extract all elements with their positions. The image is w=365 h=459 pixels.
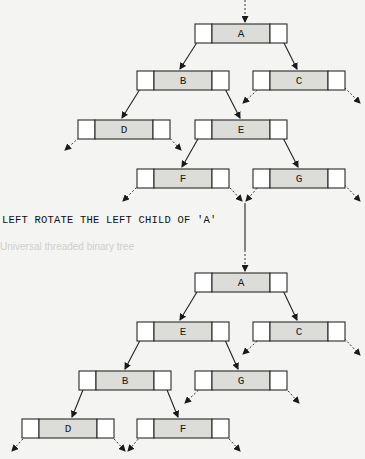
left-link-cell	[137, 419, 154, 438]
tree-node-a: A	[195, 24, 287, 43]
tree-after-rotation: AECBGDF	[12, 273, 360, 451]
tree-node-c: C	[253, 322, 345, 341]
right-link-cell	[270, 371, 287, 390]
left-link-cell	[79, 371, 96, 390]
left-link-cell	[78, 120, 95, 139]
tree-node-c: C	[253, 71, 345, 90]
right-link-cell	[154, 371, 171, 390]
left-link-cell	[195, 273, 212, 292]
left-link-cell	[253, 169, 270, 188]
tree-node-b: B	[137, 71, 229, 90]
left-link-cell	[195, 24, 212, 43]
node-label: B	[122, 375, 129, 387]
right-link-cell	[328, 169, 345, 188]
tree-node-b: B	[79, 371, 171, 390]
right-link-cell	[212, 322, 229, 341]
tree-node-d: D	[78, 120, 170, 139]
tree-node-g: G	[253, 169, 345, 188]
tree-node-d: D	[22, 419, 114, 438]
node-label: C	[296, 326, 303, 338]
threaded-binary-tree-diagram: ABCDEFG AECBGDF	[0, 0, 365, 459]
right-link-cell	[212, 169, 229, 188]
node-label: F	[180, 423, 187, 435]
left-link-cell	[137, 322, 154, 341]
tree-node-g: G	[195, 371, 287, 390]
right-link-cell	[97, 419, 114, 438]
right-link-cell	[270, 120, 287, 139]
right-link-cell	[270, 24, 287, 43]
node-label: C	[296, 75, 303, 87]
node-label: A	[238, 28, 245, 40]
left-link-cell	[137, 71, 154, 90]
tree-node-a: A	[195, 273, 287, 292]
left-link-cell	[253, 71, 270, 90]
node-label: D	[65, 423, 72, 435]
node-label: B	[180, 75, 187, 87]
tree-node-e: E	[137, 322, 229, 341]
node-label: G	[296, 173, 303, 185]
right-link-cell	[328, 71, 345, 90]
right-link-cell	[153, 120, 170, 139]
node-label: G	[238, 375, 245, 387]
left-link-cell	[22, 419, 39, 438]
left-link-cell	[195, 371, 212, 390]
node-label: E	[238, 124, 245, 136]
node-label: F	[180, 173, 187, 185]
tree-before-rotation: ABCDEFG	[65, 0, 360, 201]
left-link-cell	[137, 169, 154, 188]
rotation-caption: LEFT ROTATE THE LEFT CHILD OF 'A'	[2, 214, 217, 226]
tree-node-e: E	[195, 120, 287, 139]
right-link-cell	[212, 419, 229, 438]
right-link-cell	[328, 322, 345, 341]
tree-node-f: F	[137, 169, 229, 188]
left-link-cell	[195, 120, 212, 139]
left-link-cell	[253, 322, 270, 341]
node-label: E	[180, 326, 187, 338]
tree-node-f: F	[137, 419, 229, 438]
node-label: A	[238, 277, 245, 289]
node-label: D	[121, 124, 128, 136]
right-link-cell	[270, 273, 287, 292]
right-link-cell	[212, 71, 229, 90]
